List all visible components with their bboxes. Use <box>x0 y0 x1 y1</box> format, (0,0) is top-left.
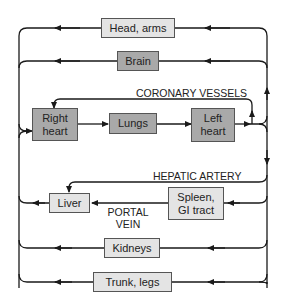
label-vein: VEIN <box>107 218 149 230</box>
node-liver-label: Liver <box>58 197 82 210</box>
node-head-arms-label: Head, arms <box>110 22 167 35</box>
node-right-heart-line2: heart <box>42 125 67 138</box>
node-trunk-legs: Trunk, legs <box>93 272 172 292</box>
connector-lines <box>0 0 284 304</box>
node-right-heart: Right heart <box>32 108 78 141</box>
node-spleen-gi-tract: Spleen, GI tract <box>168 187 224 220</box>
node-lungs: Lungs <box>109 113 157 134</box>
node-kidneys-label: Kidneys <box>112 242 151 255</box>
node-brain-label: Brain <box>125 55 151 68</box>
node-right-heart-line1: Right <box>42 112 68 125</box>
label-portal-vein: PORTAL VEIN <box>107 206 149 230</box>
node-spleen-line1: Spleen, <box>177 191 214 204</box>
node-brain: Brain <box>117 51 159 71</box>
label-portal: PORTAL <box>107 206 149 218</box>
node-left-heart-line1: Left <box>204 112 222 125</box>
node-liver: Liver <box>49 193 90 213</box>
node-head-arms: Head, arms <box>101 18 175 38</box>
node-spleen-line2: GI tract <box>178 204 214 217</box>
label-hepatic-artery: HEPATIC ARTERY <box>153 170 242 182</box>
node-left-heart: Left heart <box>191 108 235 142</box>
node-kidneys: Kidneys <box>104 238 160 258</box>
circulation-diagram: Head, arms Brain CORONARY VESSELS Right … <box>0 0 284 304</box>
node-lungs-label: Lungs <box>118 117 148 130</box>
node-trunk-legs-label: Trunk, legs <box>105 276 159 289</box>
label-coronary-vessels: CORONARY VESSELS <box>136 87 247 99</box>
node-left-heart-line2: heart <box>200 125 225 138</box>
